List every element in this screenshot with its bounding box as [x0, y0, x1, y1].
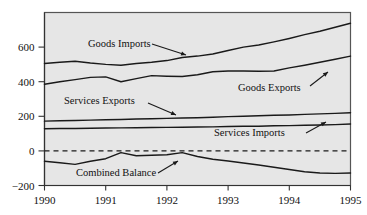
chart-figure: −2000200400600 199019911992199319941995 …	[0, 0, 367, 215]
x-tick-label: 1991	[95, 194, 117, 206]
x-tick-label: 1994	[278, 194, 301, 206]
annotation-label-services-exports: Services Exports	[64, 95, 135, 106]
x-axis-ticks: 199019911992199319941995	[34, 186, 363, 206]
annotation-label-combined-balance: Combined Balance	[76, 167, 157, 178]
y-tick-label: 600	[18, 41, 35, 53]
y-tick-label: −200	[12, 180, 35, 192]
annotation-label-goods-imports: Goods Imports	[88, 38, 151, 49]
y-tick-label: 200	[18, 110, 35, 122]
y-axis-ticks: −2000200400600	[12, 41, 45, 191]
x-tick-label: 1995	[340, 194, 363, 206]
annotation-label-services-imports: Services Imports	[214, 127, 285, 138]
x-tick-label: 1993	[217, 194, 240, 206]
line-chart: −2000200400600 199019911992199319941995 …	[0, 0, 367, 215]
x-tick-label: 1990	[34, 194, 57, 206]
y-tick-label: 400	[18, 76, 35, 88]
x-tick-label: 1992	[156, 194, 178, 206]
annotation-label-goods-exports: Goods Exports	[238, 82, 301, 93]
y-tick-label: 0	[29, 145, 35, 157]
